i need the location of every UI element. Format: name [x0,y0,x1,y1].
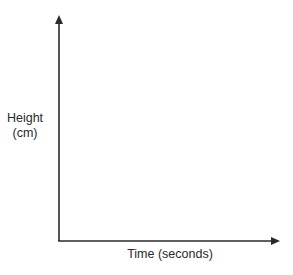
blank-graph: Height (cm) Time (seconds) [0,0,293,275]
x-axis-label: Time (seconds) [120,247,220,262]
y-axis-label-line2: (cm) [0,126,50,141]
y-axis-arrowhead-icon [55,15,63,24]
y-axis-label-line1: Height [0,111,50,126]
x-axis-arrowhead-icon [271,237,280,245]
y-axis-label: Height (cm) [0,111,50,141]
